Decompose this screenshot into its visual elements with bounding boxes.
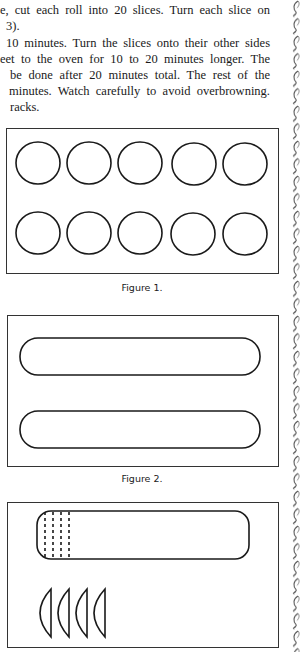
- ornamental-vine-border: [290, 0, 302, 652]
- text-line: racks.: [10, 99, 40, 115]
- dough-rolls-illustration: [8, 316, 278, 466]
- cookie-slices-illustration: [7, 129, 278, 273]
- sliced-roll-illustration: [8, 503, 278, 647]
- figure-2-baking-sheet: [7, 315, 279, 467]
- text-line: be done after 20 minutes total. The rest…: [10, 67, 270, 83]
- text-line: minutes. Watch carefully to avoid overbr…: [9, 83, 270, 99]
- text-line: 10 minutes. Turn the slices onto their o…: [6, 35, 270, 51]
- vine-ornament-icon: [290, 0, 302, 652]
- text-line: e, cut each roll into 20 slices. Turn ea…: [0, 2, 270, 18]
- figure-1-baking-sheet: [6, 128, 279, 274]
- figure-1-caption: Figure 1.: [102, 282, 182, 293]
- figure-3-baking-sheet: [7, 502, 279, 648]
- figure-2-caption: Figure 2.: [102, 473, 182, 484]
- text-line: 3).: [6, 18, 20, 34]
- text-line: eet to the oven for 10 to 20 minutes lon…: [0, 51, 270, 67]
